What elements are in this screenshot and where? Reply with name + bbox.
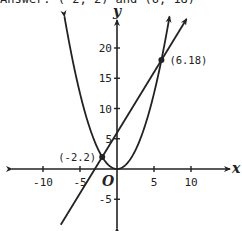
x-axis-label: x: [231, 160, 241, 176]
y-tick-label: -5: [99, 193, 112, 206]
point-label: (6.18): [169, 54, 207, 66]
origin-label: O: [102, 173, 115, 189]
line-graph: [61, 19, 187, 225]
x-tick-label: -10: [33, 176, 53, 189]
graph: -10-5510-55101520 (-2.2)(6.18) x y O: [0, 0, 242, 231]
intersection-point: [99, 154, 105, 160]
point-label: (-2.2): [58, 151, 96, 163]
y-tick-label: 15: [99, 72, 112, 85]
x-tick-label: 10: [184, 176, 197, 189]
axis-ticks: -10-5510-55101520: [33, 42, 198, 206]
intersection-point: [158, 57, 164, 63]
curves: [61, 17, 187, 225]
y-tick-label: 10: [99, 103, 112, 116]
y-axis-label: y: [112, 3, 122, 19]
y-tick-label: 20: [99, 42, 112, 55]
x-tick-label: 5: [151, 176, 158, 189]
